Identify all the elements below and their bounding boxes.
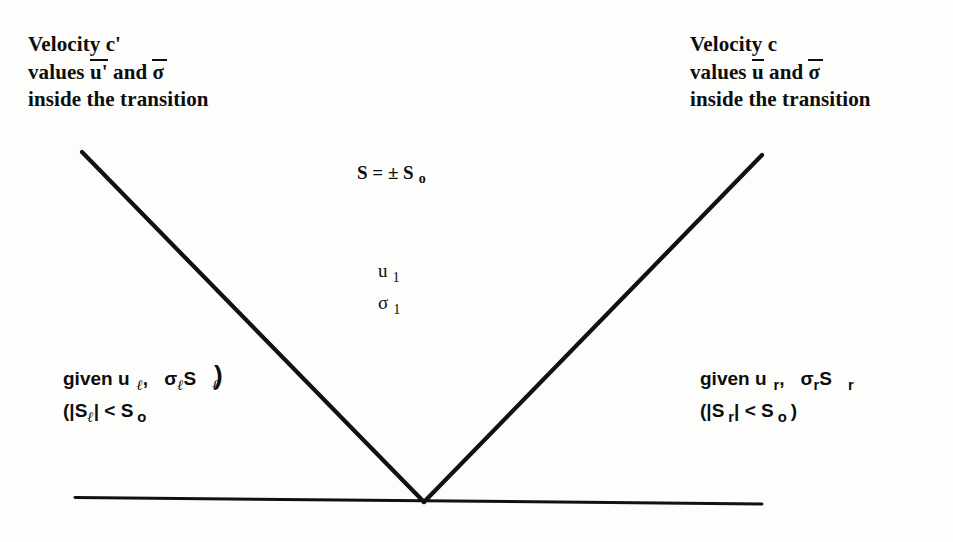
sigma-bar-symbol: σ [153, 58, 165, 86]
left-caption-line-3: inside the transition [28, 86, 209, 113]
u-subscript: 1 [393, 269, 400, 285]
left-given-comma: , [143, 368, 148, 389]
left-caption-values-word: values [28, 60, 90, 84]
right-caption-and-word: and [764, 60, 809, 84]
left-condition-mid: | < S [94, 400, 134, 421]
right-velocity-caption: Velocity c values u and σ inside the tra… [690, 31, 871, 113]
right-caption-line-3: inside the transition [690, 86, 871, 113]
left-condition-close-paren: ) [214, 362, 223, 388]
figure-canvas: Velocity c' values u' and σ inside the t… [0, 0, 953, 542]
left-s-symbol: S [183, 368, 196, 389]
right-given-state: given ur,σrSr (|Sr| < So) [700, 366, 854, 430]
left-caption-line-1: Velocity c' [28, 31, 209, 58]
left-given-line-2: (|Sℓ| < So [63, 398, 219, 430]
right-given-word: given u [700, 368, 767, 389]
right-condition-close-paren: ) [791, 400, 797, 421]
intermediate-stress-label: σ1 [378, 290, 400, 322]
left-caption-line-2: values u' and σ [28, 58, 209, 86]
left-characteristic-ray [82, 152, 424, 502]
right-caption-values-word: values [690, 60, 752, 84]
intermediate-state-labels: u1 σ1 [378, 258, 400, 322]
u-bar-symbol: u [752, 58, 764, 86]
sigma-symbol: σ [378, 292, 388, 313]
right-given-line-2: (|Sr| < So) [700, 398, 854, 430]
left-caption-and-word: and [108, 60, 153, 84]
intermediate-velocity-label: u1 [378, 258, 400, 290]
left-sigma-symbol: σ [164, 368, 177, 389]
right-given-comma: , [779, 368, 784, 389]
right-condition-open: (|S [700, 400, 724, 421]
u-symbol: u [378, 260, 388, 281]
right-given-line-1: given ur,σrSr [700, 366, 854, 398]
sigma-bar-symbol-right: σ [809, 58, 821, 86]
right-condition-subscript-o: o [778, 409, 787, 425]
left-condition-open: (|S [63, 400, 87, 421]
shear-stress-expression: S = ± S [357, 162, 414, 183]
right-condition-mid: | < S [734, 400, 774, 421]
right-sigma-symbol: σ [801, 368, 814, 389]
shear-stress-equation: S = ± So [357, 160, 426, 191]
left-given-state: given uℓ,σℓSℓ (|Sℓ| < So ) [63, 366, 219, 430]
left-condition-subscript-o: o [137, 409, 146, 425]
right-caption-line-2: values u and σ [690, 58, 871, 86]
right-s-symbol: S [819, 368, 832, 389]
right-s-subscript-r: r [848, 377, 854, 393]
left-velocity-caption: Velocity c' values u' and σ inside the t… [28, 31, 209, 113]
shear-stress-subscript: o [419, 170, 426, 186]
right-caption-line-1: Velocity c [690, 31, 871, 58]
left-given-word: given u [63, 368, 130, 389]
right-characteristic-ray [424, 155, 762, 502]
sigma-subscript: 1 [393, 301, 400, 317]
u-prime-bar-symbol: u' [90, 58, 108, 86]
left-given-line-1: given uℓ,σℓSℓ [63, 366, 219, 398]
